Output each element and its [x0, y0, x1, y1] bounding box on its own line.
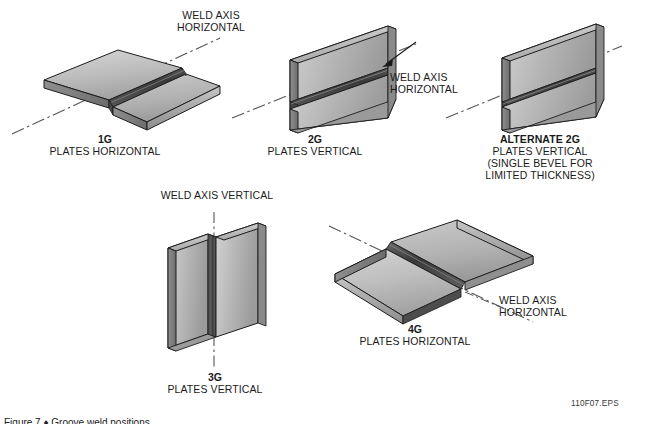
figure-caption: Figure 7 ♦ Groove weld positions.: [4, 417, 153, 424]
position-subtitle-4g: PLATES HORIZONTAL: [340, 336, 490, 348]
position-title-alternate-2g: ALTERNATE 2G: [465, 134, 615, 146]
figure-source-code: 110F07.EPS: [571, 399, 619, 408]
plate-right-face-3g: [216, 223, 258, 337]
weld-groove-3g: [208, 234, 216, 337]
position-subtitle-1g: PLATES HORIZONTAL: [25, 146, 185, 158]
position-title-2g: 2G: [255, 134, 375, 146]
plate-right-thickness-alt2g: [596, 24, 604, 117]
position-subtitle-3g: PLATES VERTICAL: [145, 384, 285, 396]
plate-illustration-3g: [150, 206, 290, 374]
groove-weld-positions-figure: WELD AXIS HORIZONTAL 1G PLATES HORIZONTA…: [0, 0, 645, 424]
leader-arrowhead-2g: [382, 59, 393, 67]
position-note-alternate-2g-line2: LIMITED THICKNESS): [460, 170, 620, 182]
plate-upper-left-2g: [290, 60, 298, 105]
plate-illustration-1g: [6, 30, 236, 140]
position-note-alternate-2g-line1: (SINGLE BEVEL FOR: [460, 158, 620, 170]
position-title-1g: 1G: [40, 134, 170, 146]
plate-left-thickness-3g: [168, 248, 176, 351]
position-subtitle-2g: PLATES VERTICAL: [245, 146, 385, 158]
plate-illustration-alternate-2g: [440, 20, 630, 140]
plate-upper-left-alt2g: [502, 58, 510, 105]
weld-axis-vertical-label-3g: WELD AXIS VERTICAL: [142, 190, 292, 202]
weld-axis-horizontal-label-4g: WELD AXIS HORIZONTAL: [499, 295, 629, 318]
plate-right-thickness-3g: [258, 223, 266, 326]
position-title-4g: 4G: [355, 324, 475, 336]
position-subtitle-alternate-2g: PLATES VERTICAL: [465, 146, 615, 158]
position-title-3g: 3G: [155, 372, 275, 384]
